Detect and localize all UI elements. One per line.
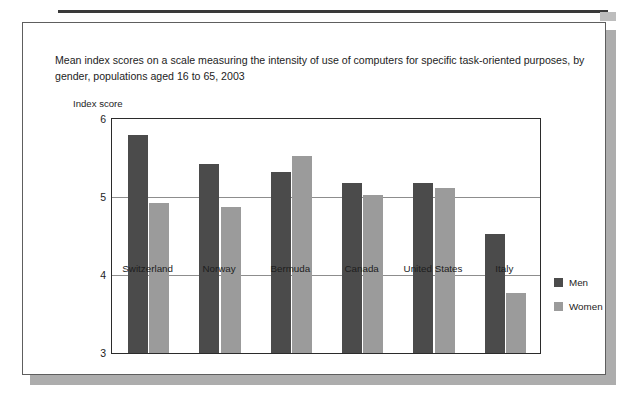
legend-swatch-icon: [554, 278, 563, 287]
page-title: Mean index scores on a scale measuring t…: [55, 53, 615, 84]
legend-item: Women: [554, 301, 603, 312]
x-axis-tick-label: Norway: [202, 263, 235, 274]
y-axis-tick-label: 6: [100, 113, 106, 125]
bar: [149, 203, 169, 353]
legend-label: Women: [569, 301, 603, 312]
bar: [485, 234, 505, 353]
bar: [199, 164, 219, 353]
y-axis-title: Index score: [73, 98, 123, 109]
plot-area: 3456: [111, 118, 541, 354]
bar: [128, 135, 148, 353]
chart-legend: MenWomen: [554, 277, 603, 325]
x-axis-tick-label: United States: [404, 263, 463, 274]
page-card: Mean index scores on a scale measuring t…: [22, 22, 606, 375]
y-axis-tick-label: 5: [100, 191, 106, 203]
x-axis-tick-label: Bermuda: [270, 263, 310, 274]
x-axis-tick-label: Canada: [344, 263, 378, 274]
legend-label: Men: [569, 277, 588, 288]
bar: [292, 156, 312, 353]
y-axis-tick-label: 3: [100, 347, 106, 359]
x-axis-tick-label: Switzerland: [122, 263, 173, 274]
x-axis-tick-label: Italy: [495, 263, 513, 274]
header-rule-tail: [600, 12, 616, 21]
legend-swatch-icon: [554, 302, 563, 311]
bar: [221, 207, 241, 353]
legend-item: Men: [554, 277, 603, 288]
bar: [506, 293, 526, 353]
y-axis-tick-label: 4: [100, 269, 106, 281]
header-rule: [58, 10, 608, 13]
bar-series-layer: [112, 119, 540, 353]
bar: [363, 195, 383, 353]
